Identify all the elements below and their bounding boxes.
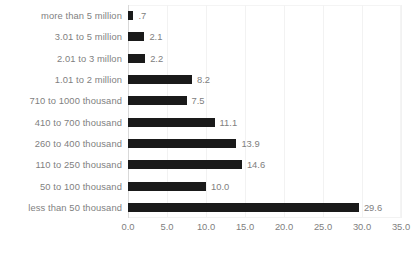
bar-row: 50 to 100 thousand10.0 (0, 175, 412, 196)
x-tick-label: 35.0 (392, 221, 410, 232)
bar-value-label: 11.1 (220, 117, 238, 128)
bar-value-label: 2.2 (150, 53, 163, 64)
bar-value-label: 8.2 (197, 74, 210, 85)
category-label: 110 to 250 thousand (0, 159, 122, 170)
bar (128, 11, 133, 20)
x-tick-label: 15.0 (236, 221, 254, 232)
bar-row: 260 to 400 thousand13.9 (0, 133, 412, 154)
bar (128, 139, 236, 148)
bar-row: less than 50 thousand29.6 (0, 197, 412, 218)
bar-row: 3.01 to 5 million2.1 (0, 26, 412, 47)
x-tick-label: 5.0 (160, 221, 173, 232)
bar (128, 54, 145, 63)
bar-value-label: .7 (138, 10, 146, 21)
bar (128, 75, 192, 84)
bar-row: 710 to 1000 thousand7.5 (0, 90, 412, 111)
bar (128, 32, 144, 41)
category-label: less than 50 thousand (0, 202, 122, 213)
bar-row: 110 to 250 thousand14.6 (0, 154, 412, 175)
bar-rows: more than 5 million.73.01 to 5 million2.… (0, 5, 412, 218)
bar-row: 1.01 to 2 million8.2 (0, 69, 412, 90)
bar-value-label: 10.0 (211, 181, 229, 192)
bar-value-label: 14.6 (247, 159, 265, 170)
bar-value-label: 13.9 (241, 138, 259, 149)
x-tick-label: 25.0 (314, 221, 332, 232)
category-label: 710 to 1000 thousand (0, 95, 122, 106)
category-label: 410 to 700 thousand (0, 117, 122, 128)
bar (128, 118, 215, 127)
bar-value-label: 29.6 (364, 202, 382, 213)
category-label: more than 5 million (0, 10, 122, 21)
category-label: 3.01 to 5 million (0, 31, 122, 42)
bar (128, 182, 206, 191)
x-tick-label: 30.0 (353, 221, 371, 232)
category-label: 2.01 to 3 millon (0, 53, 122, 64)
bar (128, 96, 187, 105)
x-tick-label: 10.0 (197, 221, 215, 232)
bar-row: 410 to 700 thousand11.1 (0, 112, 412, 133)
category-label: 260 to 400 thousand (0, 138, 122, 149)
bar (128, 203, 359, 212)
category-label: 1.01 to 2 million (0, 74, 122, 85)
category-label: 50 to 100 thousand (0, 181, 122, 192)
x-axis-tick-labels: 0.05.010.015.020.025.030.035.0 (0, 221, 412, 241)
bar (128, 160, 242, 169)
bar-chart: more than 5 million.73.01 to 5 million2.… (0, 0, 412, 255)
bar-row: 2.01 to 3 millon2.2 (0, 48, 412, 69)
bar-row: more than 5 million.7 (0, 5, 412, 26)
bar-value-label: 2.1 (149, 31, 162, 42)
x-tick-label: 0.0 (121, 221, 134, 232)
bar-value-label: 7.5 (192, 95, 205, 106)
x-tick-label: 20.0 (275, 221, 293, 232)
